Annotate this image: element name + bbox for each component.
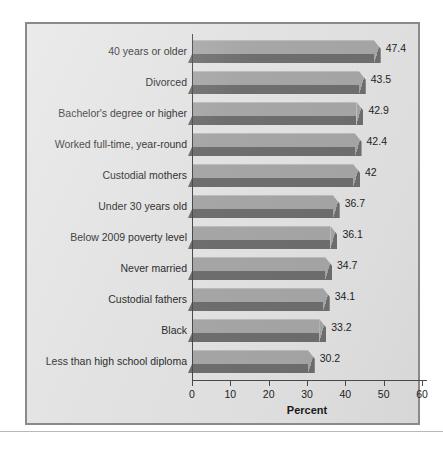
bar-front-face: [192, 240, 330, 249]
bar-end-cap: [356, 102, 363, 125]
x-axis-tick-label: 50: [369, 388, 399, 400]
x-axis-title: Percent: [192, 404, 422, 416]
bar-row: Below 2009 poverty level36.1: [27, 225, 418, 256]
bar-front-face: [192, 147, 355, 156]
bar-value-label: 30.2: [320, 352, 340, 364]
bar-end-cap: [353, 164, 360, 187]
bar-front-face: [192, 302, 323, 311]
category-label: Custodial fathers: [27, 292, 187, 306]
x-axis-tick-label: 0: [177, 388, 207, 400]
x-axis-tick: [345, 381, 346, 386]
bar-end-cap: [359, 71, 366, 94]
bar-top-face: [192, 319, 319, 333]
bar-front-face: [192, 333, 319, 342]
x-axis-tick: [230, 381, 231, 386]
x-axis-tick: [307, 381, 308, 386]
bar-value-label: 33.2: [331, 321, 351, 333]
bar-value-label: 34.7: [337, 259, 357, 271]
bar-row: Never married34.7: [27, 256, 418, 287]
bar: [192, 195, 333, 218]
bar-row: Worked full-time, year-round42.4: [27, 132, 418, 163]
bar-row: Bachelor's degree or higher42.9: [27, 101, 418, 132]
bar-top-face: [192, 133, 355, 147]
x-axis-tick: [384, 381, 385, 386]
bar: [192, 164, 353, 187]
bar: [192, 40, 374, 63]
bar-end-cap: [330, 226, 337, 249]
bar-row: Custodial fathers34.1: [27, 287, 418, 318]
category-label: Below 2009 poverty level: [27, 230, 187, 244]
bar-value-label: 42.9: [368, 104, 388, 116]
bar-value-label: 36.1: [342, 228, 362, 240]
bar-end-cap: [355, 133, 362, 156]
bar: [192, 350, 308, 373]
x-axis-tick-label: 60: [407, 388, 437, 400]
bar-end-cap: [374, 40, 381, 63]
bar-end-cap: [323, 288, 330, 311]
bar: [192, 257, 325, 280]
bar-value-label: 43.5: [371, 73, 391, 85]
bar-value-label: 34.1: [335, 290, 355, 302]
bar-front-face: [192, 209, 333, 218]
x-axis-tick-label: 10: [215, 388, 245, 400]
bar: [192, 71, 359, 94]
bar-row: Custodial mothers42: [27, 163, 418, 194]
bar-row: Divorced43.5: [27, 70, 418, 101]
plot-area: 40 years or older47.4Divorced43.5Bachelo…: [27, 24, 418, 423]
category-label: Less than high school diploma: [27, 354, 187, 368]
bar-top-face: [192, 288, 323, 302]
bar-row: Under 30 years old36.7: [27, 194, 418, 225]
bar-row: 40 years or older47.4: [27, 39, 418, 70]
bar-front-face: [192, 178, 353, 187]
bar-end-cap: [319, 319, 326, 342]
bar-row: Black33.2: [27, 318, 418, 349]
bar: [192, 226, 330, 249]
category-label: Never married: [27, 261, 187, 275]
bar: [192, 319, 319, 342]
bar-end-cap: [308, 350, 315, 373]
bar-top-face: [192, 350, 308, 364]
category-label: Divorced: [27, 75, 187, 89]
bar-value-label: 47.4: [386, 42, 406, 54]
bar-front-face: [192, 364, 308, 373]
y-axis-line: [192, 34, 193, 380]
bar-value-label: 42.4: [367, 135, 387, 147]
bar-front-face: [192, 85, 359, 94]
bar-top-face: [192, 40, 374, 54]
x-axis-tick-label: 30: [292, 388, 322, 400]
category-label: 40 years or older: [27, 44, 187, 58]
bar-end-cap: [333, 195, 340, 218]
category-label: Under 30 years old: [27, 199, 187, 213]
bar-end-cap: [325, 257, 332, 280]
bar-top-face: [192, 257, 325, 271]
bar-top-face: [192, 195, 333, 209]
x-axis-tick: [422, 381, 423, 386]
bar: [192, 102, 356, 125]
bar-top-face: [192, 71, 359, 85]
footer-divider: [0, 431, 443, 432]
bar-value-label: 42: [365, 166, 377, 178]
x-axis-tick: [269, 381, 270, 386]
bar-value-label: 36.7: [345, 197, 365, 209]
x-axis-tick-label: 20: [254, 388, 284, 400]
bar-row: Less than high school diploma30.2: [27, 349, 418, 380]
x-axis-line: [192, 380, 427, 381]
x-axis-tick: [192, 381, 193, 386]
category-label: Black: [27, 323, 187, 337]
bar-top-face: [192, 102, 356, 116]
bar: [192, 288, 323, 311]
chart-panel: 40 years or older47.4Divorced43.5Bachelo…: [25, 22, 420, 425]
bar-front-face: [192, 54, 374, 63]
category-label: Bachelor's degree or higher: [27, 106, 187, 120]
x-axis-tick-label: 40: [330, 388, 360, 400]
bar-top-face: [192, 226, 330, 240]
bar-top-face: [192, 164, 353, 178]
bar-front-face: [192, 271, 325, 280]
bar: [192, 133, 355, 156]
category-label: Worked full-time, year-round: [27, 137, 187, 151]
bar-front-face: [192, 116, 356, 125]
category-label: Custodial mothers: [27, 168, 187, 182]
